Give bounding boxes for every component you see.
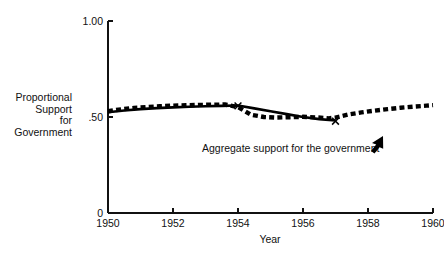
annotation-label: Aggregate support for the government <box>202 142 380 154</box>
x-tick-label: 1956 <box>291 217 315 229</box>
data-series <box>108 105 433 121</box>
y-tick-label: .50 <box>88 111 103 123</box>
plot-area: 1.00.500 195019521954195619581960 Aggreg… <box>0 0 444 260</box>
x-tick-label: 1958 <box>356 217 380 229</box>
x-tick-label: 1960 <box>421 217 444 229</box>
x-tick-label: 1952 <box>161 217 185 229</box>
chart-figure: Proportional Support for Government 1.00… <box>0 0 444 260</box>
y-tick-label: 1.00 <box>83 15 104 27</box>
chart-annotation: Aggregate support for the government <box>202 136 383 154</box>
x-axis-ticks: 195019521954195619581960 <box>96 208 444 229</box>
x-tick-label: 1950 <box>96 217 120 229</box>
x-axis-title: Year <box>259 233 281 245</box>
x-tick-label: 1954 <box>226 217 250 229</box>
